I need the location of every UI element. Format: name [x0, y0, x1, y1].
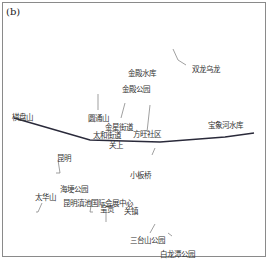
place-label-santaishan-park: 三台山公园	[130, 237, 165, 245]
leader-line	[36, 203, 42, 212]
place-label-chenggong: 呈贡	[100, 206, 114, 214]
place-label-xiaobanqiao: 小板桥	[130, 172, 151, 180]
place-label-haigeng-park: 海埂公园	[60, 186, 88, 194]
place-label-jindian-reservoir: 金殿水库	[128, 70, 156, 78]
place-label-kunming-dianchi-intl-conv-center: 昆明滇池国际会展中心	[63, 200, 133, 208]
place-label-yuantong-shan: 圆通山	[88, 115, 109, 123]
place-label-taihe-jiedao: 太和街道	[93, 132, 121, 140]
leader-line	[121, 103, 125, 118]
place-label-qipan-shan: 棋盘山	[12, 114, 33, 122]
place-label-shuanglong-wulong: 双龙乌龙	[192, 66, 220, 74]
place-label-kunming: 昆明	[57, 155, 71, 163]
place-label-bailongtan-park: 白龙潭公园	[160, 251, 195, 259]
place-label-baoxiang-reservoir: 宝象河水库	[208, 122, 243, 130]
place-label-guandu: 关镇	[124, 208, 138, 216]
leader-line	[147, 105, 150, 132]
leader-line	[152, 148, 155, 155]
leader-line	[173, 49, 186, 65]
leader-line	[168, 233, 172, 236]
place-label-fanghong-shequ: 方旺社区	[133, 131, 161, 139]
place-label-jindian-park: 金殿公园	[122, 86, 150, 94]
place-label-guanshang: 关上	[109, 142, 123, 150]
place-label-taihua-shan: 太华山	[35, 194, 56, 202]
leader-line	[150, 224, 155, 233]
